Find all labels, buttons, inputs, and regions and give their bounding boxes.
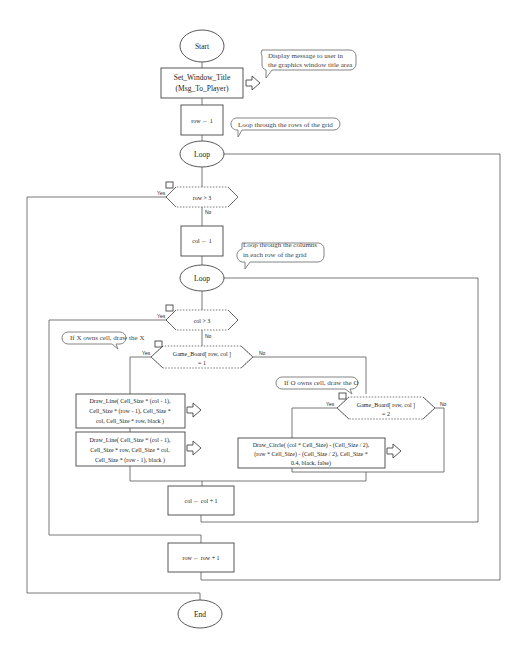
svg-text:(row * Cell_Size) - (Cell_: (row * Cell_Size) - (Cell_Size / 2), Cel… bbox=[254, 451, 367, 458]
svg-text:No: No bbox=[205, 333, 212, 339]
svg-text:= 1: = 1 bbox=[198, 360, 206, 366]
col-init-box[interactable]: col ← 1 bbox=[181, 226, 223, 256]
svg-text:No: No bbox=[205, 209, 212, 215]
svg-text:If X owns cell, draw the X: If X owns cell, draw the X bbox=[70, 334, 144, 342]
svg-text:in each row of the grid: in each row of the grid bbox=[243, 251, 307, 259]
comment-rows: Loop through the rows of the grid bbox=[231, 118, 340, 137]
start-terminal[interactable]: Start bbox=[180, 30, 224, 62]
comment-o: If O owns cell, draw the O bbox=[276, 377, 358, 394]
svg-text:Draw_Circle( (col * Cell_Siz: Draw_Circle( (col * Cell_Size) - (Cell_S… bbox=[253, 442, 370, 449]
svg-text:End: End bbox=[194, 610, 206, 619]
draw-circle-box[interactable]: Draw_Circle( (col * Cell_Size) - (Cell_S… bbox=[238, 438, 385, 468]
output-arrow-icon bbox=[187, 403, 201, 417]
svg-text:Loop through the columns: Loop through the columns bbox=[243, 241, 317, 249]
svg-text:Cell_Size * row, Cell_Size: Cell_Size * row, Cell_Size * col, bbox=[90, 447, 170, 453]
svg-text:Game_Board[ row, col ]: Game_Board[ row, col ] bbox=[173, 351, 231, 358]
o-condition[interactable]: Game_Board[ row, col ] = 2 bbox=[337, 393, 435, 419]
svg-text:No: No bbox=[440, 401, 447, 407]
draw-line-2-box[interactable]: Draw_Line( Cell_Size * (col - 1), Cell_S… bbox=[76, 432, 185, 466]
svg-text:Yes: Yes bbox=[157, 313, 166, 319]
svg-text:Draw_Line( Cell_Size * (col: Draw_Line( Cell_Size * (col - 1), bbox=[90, 437, 171, 444]
start-label: Start bbox=[195, 42, 210, 51]
svg-text:(Msg_To_Player): (Msg_To_Player) bbox=[176, 84, 229, 93]
output-arrow-icon bbox=[246, 76, 260, 90]
outer-loop[interactable]: Loop bbox=[180, 141, 224, 167]
collapse-icon[interactable] bbox=[166, 182, 173, 188]
svg-text:Set_Window_Title: Set_Window_Title bbox=[174, 73, 231, 82]
set-window-title-box[interactable]: Set_Window_Title (Msg_To_Player) bbox=[161, 68, 243, 98]
output-arrow-icon bbox=[387, 444, 401, 458]
svg-text:row ← 1: row ← 1 bbox=[191, 118, 212, 124]
svg-text:col, Cell_Size * row, blac: col, Cell_Size * row, black ) bbox=[96, 418, 164, 425]
svg-text:Game_Board[ row, col ]: Game_Board[ row, col ] bbox=[357, 402, 415, 409]
svg-text:If O owns cell, draw the O: If O owns cell, draw the O bbox=[284, 379, 358, 387]
svg-text:Yes: Yes bbox=[142, 350, 151, 356]
row-increment-box[interactable]: row ← row + 1 bbox=[168, 543, 234, 572]
svg-text:Loop through the rows of the g: Loop through the rows of the grid bbox=[238, 121, 333, 129]
svg-text:Cell_Size * (row - 1), blac: Cell_Size * (row - 1), black ) bbox=[95, 457, 165, 464]
collapse-icon[interactable] bbox=[339, 393, 346, 399]
comment-x: If X owns cell, draw the X bbox=[62, 332, 144, 349]
outer-loop-back bbox=[201, 154, 500, 580]
collapse-icon[interactable] bbox=[155, 341, 162, 347]
inner-loop[interactable]: Loop bbox=[180, 265, 224, 291]
col-increment-box[interactable]: col ← col + 1 bbox=[168, 486, 234, 515]
svg-text:Loop: Loop bbox=[194, 274, 210, 283]
svg-text:Loop: Loop bbox=[194, 150, 210, 159]
svg-text:row ← row + 1: row ← row + 1 bbox=[182, 555, 219, 561]
svg-text:No: No bbox=[259, 350, 266, 356]
flowchart-canvas: Start Display message to user in the gra… bbox=[0, 0, 525, 658]
svg-text:0.4, black, false): 0.4, black, false) bbox=[291, 460, 331, 467]
comment-title: Display message to user in the graphics … bbox=[261, 50, 356, 78]
svg-text:Draw_Line( Cell_Size * (col: Draw_Line( Cell_Size * (col - 1), bbox=[90, 398, 171, 405]
svg-text:col > 3: col > 3 bbox=[194, 318, 211, 324]
svg-text:= 2: = 2 bbox=[382, 411, 390, 417]
svg-text:Yes: Yes bbox=[157, 190, 166, 196]
svg-text:row > 3: row > 3 bbox=[193, 195, 212, 201]
comment-cols: Loop through the columns in each row of … bbox=[237, 241, 324, 269]
svg-text:col ← 1: col ← 1 bbox=[192, 238, 211, 244]
end-terminal[interactable]: End bbox=[178, 600, 222, 628]
output-arrow-icon bbox=[187, 441, 201, 455]
svg-text:Cell_Size * (row - 1), Cell: Cell_Size * (row - 1), Cell_Size * bbox=[89, 408, 170, 415]
svg-text:the graphics window title area: the graphics window title area bbox=[268, 61, 353, 69]
row-init-box[interactable]: row ← 1 bbox=[181, 105, 223, 135]
svg-text:Yes: Yes bbox=[326, 401, 335, 407]
draw-line-1-box[interactable]: Draw_Line( Cell_Size * (col - 1), Cell_S… bbox=[76, 394, 185, 428]
inner-loop-back bbox=[201, 278, 478, 522]
svg-text:col ← col + 1: col ← col + 1 bbox=[184, 498, 217, 504]
svg-text:Display message to user in: Display message to user in bbox=[268, 52, 344, 60]
collapse-icon[interactable] bbox=[166, 305, 173, 311]
